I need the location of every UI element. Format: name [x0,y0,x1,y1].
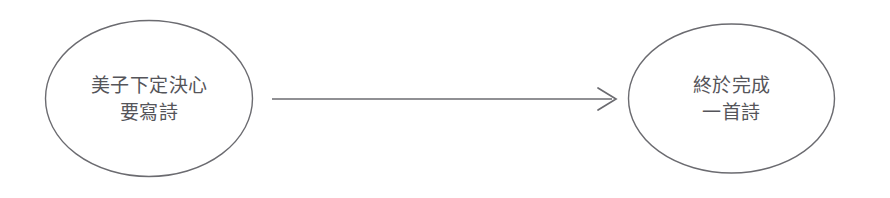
diagram-svg [0,0,890,198]
node-start-ellipse[interactable] [46,21,253,177]
node-end-ellipse[interactable] [629,24,835,173]
diagram-canvas: 美子下定決心 要寫詩 終於完成 一首詩 [0,0,890,198]
